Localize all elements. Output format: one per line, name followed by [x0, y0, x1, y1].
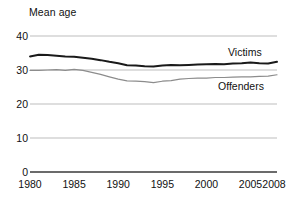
series-label-victims: Victims	[228, 46, 262, 58]
chart-plot-area	[0, 0, 287, 198]
x-tick-label: 2000	[195, 178, 218, 190]
y-tick-label: 40	[2, 31, 28, 41]
series-label-offenders: Offenders	[218, 80, 264, 92]
y-tick-label: 0	[2, 167, 28, 177]
y-tick-label: 20	[2, 99, 28, 109]
x-tick-label: 1980	[18, 178, 41, 190]
x-tick-label: 1990	[107, 178, 130, 190]
x-tick-label: 1995	[151, 178, 174, 190]
chart-container: Mean age 010203040 198019851990199520002…	[0, 0, 287, 198]
y-tick-label: 30	[2, 65, 28, 75]
x-tick-label: 2005	[239, 178, 262, 190]
x-tick-label: 2008	[262, 178, 285, 190]
x-tick-label: 1985	[62, 178, 85, 190]
y-axis-ticks: 010203040	[0, 0, 28, 198]
y-tick-label: 10	[2, 133, 28, 143]
